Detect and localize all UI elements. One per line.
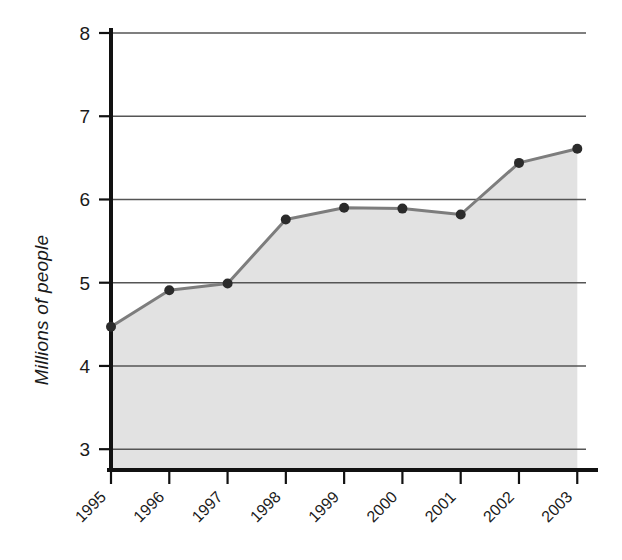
y-tick-label: 7 bbox=[79, 106, 90, 127]
y-axis-label: Millions of people bbox=[31, 235, 52, 385]
y-tick-label: 5 bbox=[79, 273, 90, 294]
data-point: 2002: 6.44 bbox=[514, 158, 524, 168]
x-axis-ticks: 199519961997199819992000200120022003 bbox=[72, 470, 577, 525]
x-tick-label: 2003 bbox=[538, 488, 575, 525]
data-point: 2001: 5.82 bbox=[456, 210, 466, 220]
x-tick-label: 2002 bbox=[480, 488, 517, 525]
data-point: 1996: 4.91 bbox=[164, 285, 174, 295]
data-point: 1997: 4.99 bbox=[223, 279, 233, 289]
x-tick-label: 1999 bbox=[305, 488, 342, 525]
y-tick-label: 4 bbox=[79, 356, 90, 377]
y-tick-label: 3 bbox=[79, 439, 90, 460]
x-tick-label: 2001 bbox=[422, 488, 459, 525]
x-tick-label: 1995 bbox=[72, 488, 109, 525]
data-point: 1998: 5.76 bbox=[281, 215, 291, 225]
y-axis-ticks: 345678 bbox=[79, 23, 113, 460]
area-chart: 345678 199519961997199819992000200120022… bbox=[0, 0, 622, 560]
x-tick-label: 1998 bbox=[247, 488, 284, 525]
y-tick-label: 6 bbox=[79, 189, 90, 210]
data-point: 1995: 4.47 bbox=[106, 322, 116, 332]
y-tick-label: 8 bbox=[79, 23, 90, 44]
x-tick-label: 1996 bbox=[130, 488, 167, 525]
data-point: 1999: 5.9 bbox=[339, 203, 349, 213]
x-tick-label: 1997 bbox=[188, 488, 225, 525]
data-point: 2003: 6.61 bbox=[572, 144, 582, 154]
data-point: 2000: 5.89 bbox=[397, 204, 407, 214]
chart-container: 345678 199519961997199819992000200120022… bbox=[0, 0, 622, 560]
x-tick-label: 2000 bbox=[363, 488, 400, 525]
